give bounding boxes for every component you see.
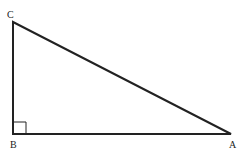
vertex-label-b: B xyxy=(10,139,17,150)
triangle-diagram: C B A xyxy=(0,0,240,153)
right-angle-marker xyxy=(13,122,26,134)
triangle-abc xyxy=(13,22,231,134)
vertex-label-c: C xyxy=(7,9,14,20)
vertex-label-a: A xyxy=(229,139,237,150)
